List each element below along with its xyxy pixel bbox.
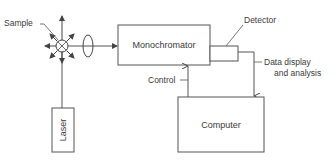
control-label: Control [148,76,175,85]
detector-leader [226,25,243,46]
data-line [238,52,254,96]
sample-label: Sample [4,19,33,28]
laser-label-container: Laser [52,108,74,152]
sample-icon [56,40,68,52]
scattered-light-arrows [45,16,74,63]
data-label-line1: Data display [264,58,311,67]
computer-label: Computer [178,97,264,152]
detector-label: Detector [244,16,276,25]
detector-box [210,46,238,61]
data-label-line2: and analysis [274,69,321,78]
laser-label: Laser [58,119,68,142]
sample-leader-diag [44,24,58,40]
monochromator-label: Monochromator [118,25,210,65]
